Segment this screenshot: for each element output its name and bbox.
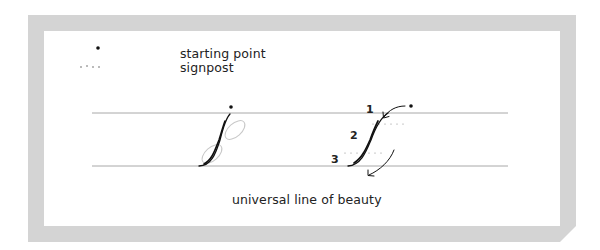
starting-point-dot [409,104,413,108]
diagram-canvas [0,0,600,250]
step-label-3: 3 [331,154,339,166]
step-label-1: 1 [366,104,374,116]
starting-point-dot-icon [96,46,100,50]
legend-label-signpost: signpost [180,61,234,75]
caption: universal line of beauty [232,193,382,207]
step-label-2: 2 [350,130,358,142]
legend-label-starting-point: starting point [180,47,266,61]
starting-point-dot [229,105,233,109]
